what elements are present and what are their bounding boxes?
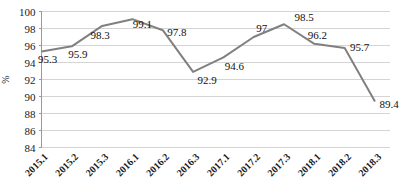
y-tick-label: 90	[25, 91, 37, 103]
y-tick-label: 84	[25, 142, 37, 154]
data-point-label: 92.9	[197, 74, 217, 86]
y-tick-label: 88	[25, 108, 37, 120]
line-chart: 1009896949290888684 % 2015.12015.22015.3…	[0, 0, 403, 191]
y-tick-labels: 1009896949290888684	[19, 6, 36, 154]
y-tick-label: 98	[25, 23, 37, 35]
data-point-label: 94.6	[225, 60, 245, 72]
data-point-label: 95.7	[350, 41, 370, 53]
data-point-label: 99.1	[133, 18, 152, 30]
x-tick-label: 2017.1	[205, 151, 232, 178]
y-tick-label: 86	[25, 125, 37, 137]
data-point-label: 98.5	[294, 11, 314, 23]
data-point-label: 95.3	[38, 53, 58, 65]
x-tick-label: 2018.3	[356, 151, 383, 178]
data-point-label: 97.8	[167, 26, 187, 38]
x-tick-label: 2015.3	[83, 151, 110, 178]
chart-svg: 1009896949290888684 % 2015.12015.22015.3…	[0, 0, 403, 191]
data-point-label: 96.2	[308, 29, 327, 41]
y-tick-label: 94	[25, 57, 37, 69]
x-tick-labels: 2015.12015.22015.32016.12016.22016.32017…	[23, 151, 384, 178]
x-tick-label: 2018.1	[296, 151, 323, 178]
data-point-label: 95.9	[68, 48, 88, 60]
x-tick-label: 2016.1	[114, 151, 141, 178]
data-point-label: 89.4	[379, 98, 399, 110]
x-tick-label: 2016.3	[174, 151, 201, 178]
x-tick-label: 2015.1	[23, 151, 50, 178]
y-tick-label: 96	[25, 40, 37, 52]
data-point-label: 98.3	[91, 29, 111, 41]
x-tick-label: 2015.2	[53, 151, 80, 178]
y-axis-title: %	[0, 75, 11, 83]
y-tick-label: 92	[25, 74, 36, 86]
data-point-label: 97	[256, 22, 268, 34]
x-tick-label: 2017.2	[235, 151, 262, 178]
x-tick-label: 2018.2	[326, 151, 353, 178]
y-axis-title: %	[0, 75, 11, 83]
x-tick-label: 2016.2	[144, 151, 171, 178]
x-tick-label: 2017.3	[265, 151, 292, 178]
y-tick-label: 100	[19, 6, 36, 18]
